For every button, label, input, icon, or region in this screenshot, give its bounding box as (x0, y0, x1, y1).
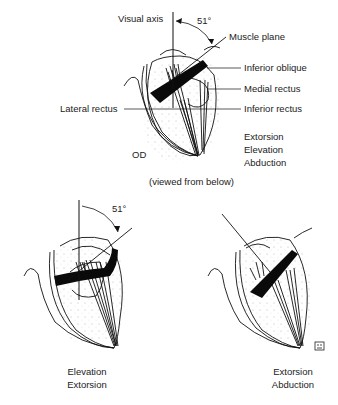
muscle-plane-label: Muscle plane (229, 31, 285, 42)
publisher-logo-icon (315, 342, 324, 350)
bottom-right-action-2: Abduction (263, 379, 323, 390)
medial-rectus-label: Medial rectus (244, 83, 301, 94)
angle-label-bottom-left: 51° (112, 203, 126, 214)
inferior-rectus-label: Inferior rectus (244, 103, 302, 114)
angle-label-top: 51° (197, 15, 211, 26)
lateral-rectus-label: Lateral rectus (60, 103, 118, 114)
bottom-right-action-1: Extorsion (263, 366, 323, 377)
bottom-left-action-2: Extorsion (57, 379, 117, 390)
eye-label-od: OD (132, 149, 146, 160)
bottom-left-eye-drawing (24, 237, 126, 348)
bottom-left-action-1: Elevation (57, 366, 117, 377)
top-action-3: Abduction (244, 157, 286, 168)
inferior-oblique-label: Inferior oblique (244, 62, 307, 73)
viewed-from-below-caption: (viewed from below) (149, 176, 234, 187)
diagram-drawing (0, 0, 338, 405)
top-action-2: Elevation (244, 144, 283, 155)
visual-axis-label: Visual axis (118, 13, 163, 24)
top-action-1: Extorsion (244, 131, 284, 142)
